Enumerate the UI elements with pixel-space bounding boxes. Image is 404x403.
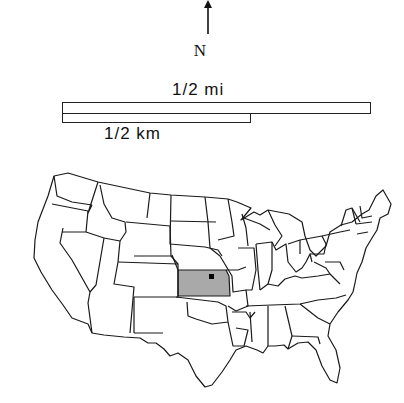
location-marker [209,274,214,279]
us-states-map [0,0,404,403]
state-borders [52,176,372,349]
state-kansas [178,270,230,296]
